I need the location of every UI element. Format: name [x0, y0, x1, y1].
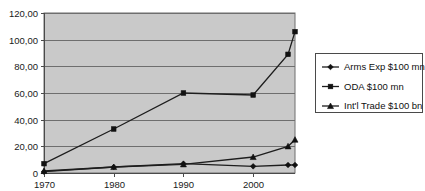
x-tick-label: 1970 — [34, 179, 55, 190]
chart-canvas: 020,0040,0060,0080,00100,00120,00 197019… — [0, 0, 425, 191]
x-tick-label: 1980 — [104, 179, 125, 190]
series-1-point-square-marker — [42, 161, 47, 166]
y-axis-ticks: 020,0040,0060,0080,00100,00120,00 — [9, 8, 44, 179]
series-1-point-square-marker — [286, 52, 291, 57]
series-1-point-square-marker — [111, 127, 116, 132]
y-tick-label: 80,00 — [14, 61, 38, 72]
legend-label-2: Int'l Trade $100 bn — [344, 100, 422, 111]
legend-label-0: Arms Exp $100 mn — [344, 61, 425, 72]
y-tick-label: 60,00 — [14, 88, 38, 99]
legend-swatch-1-square-marker — [328, 84, 333, 89]
y-tick-label: 0 — [33, 168, 38, 179]
y-tick-label: 20,00 — [14, 141, 38, 152]
y-tick-label: 40,00 — [14, 115, 38, 126]
series-1-point-square-marker — [251, 93, 256, 98]
line-chart: 020,0040,0060,0080,00100,00120,00 197019… — [0, 0, 425, 191]
x-tick-label: 2000 — [243, 179, 264, 190]
legend: Arms Exp $100 mnODA $100 mnInt'l Trade $… — [316, 54, 425, 113]
x-tick-label: 1990 — [173, 179, 194, 190]
y-tick-label: 100,00 — [9, 35, 38, 46]
x-axis-ticks: 1970198019902000 — [34, 173, 264, 190]
series-1-point-square-marker — [181, 91, 186, 96]
series-1-point-square-marker — [293, 29, 298, 34]
legend-label-1: ODA $100 mn — [344, 81, 404, 92]
y-tick-label: 120,00 — [9, 8, 38, 19]
